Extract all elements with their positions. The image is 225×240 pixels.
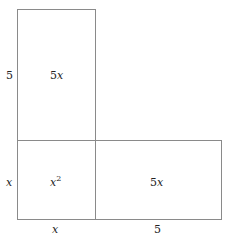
left-bottom-side-label: x xyxy=(6,176,13,189)
bottom-left-side-label: x xyxy=(52,223,59,236)
bottom-left-region-label: x2 xyxy=(50,174,61,189)
bottom-right-side-label: 5 xyxy=(154,223,161,236)
left-top-side-label: 5 xyxy=(6,69,13,82)
area-model-diagram: 5x x2 5x 5 x x 5 xyxy=(0,0,225,240)
bottom-right-region-label: 5x xyxy=(150,176,164,189)
top-region-label: 5x xyxy=(50,69,64,82)
